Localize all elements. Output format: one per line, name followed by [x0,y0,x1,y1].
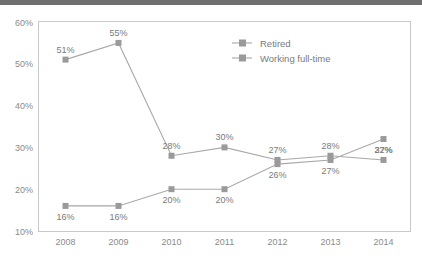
data-point-marker [169,186,175,192]
legend-marker-square [239,55,246,62]
x-axis-tick-label: 2013 [320,237,340,247]
data-point-label: 28% [321,141,339,151]
data-point-label: 30% [215,132,233,142]
data-point-label: 51% [56,45,74,55]
data-point-marker [63,203,69,209]
line-chart: 10%20%30%40%50%60% 200820092010201120122… [0,0,422,258]
chart-legend: RetiredWorking full-time [232,38,331,64]
x-axis-tick-label: 2014 [373,237,393,247]
x-axis-tick-label: 2009 [108,237,128,247]
data-point-marker [222,186,228,192]
series-layer [63,40,387,209]
x-axis-tick-label: 2008 [55,237,75,247]
x-axis-tick-label: 2011 [215,237,234,247]
data-point-label: 16% [109,212,127,222]
y-axis: 10%20%30%40%50%60% [15,18,33,237]
data-point-marker [116,40,122,46]
data-labels-layer: 51%55%28%30%27%28%27%16%16%20%20%26%27%3… [56,28,392,222]
y-axis-tick-label: 40% [15,101,33,111]
data-point-label: 16% [56,212,74,222]
data-point-marker [381,157,387,163]
data-point-marker [275,161,281,167]
y-axis-tick-label: 30% [15,143,33,153]
data-point-marker [63,57,69,63]
data-point-label: 26% [268,170,286,180]
legend-marker-square [239,40,246,47]
data-point-label: 27% [321,166,339,176]
data-point-marker [381,136,387,142]
data-point-label: 20% [162,195,180,205]
data-point-marker [222,144,228,150]
data-point-label: 27% [268,145,286,155]
data-point-label: 55% [109,28,127,38]
y-axis-tick-label: 60% [15,18,33,28]
x-axis-tick-label: 2010 [161,237,181,247]
y-axis-tick-label: 50% [15,59,33,69]
data-point-marker [328,157,334,163]
legend-item-label: Retired [260,38,291,49]
y-axis-tick-label: 20% [15,185,33,195]
data-point-label: 28% [162,141,180,151]
data-point-label: 32% [374,145,392,155]
y-axis-tick-label: 10% [15,227,33,237]
data-point-marker [116,203,122,209]
x-axis: 2008200920102011201220132014 [55,237,393,247]
x-axis-tick-label: 2012 [267,237,287,247]
data-point-marker [169,153,175,159]
legend-item-label: Working full-time [260,53,331,64]
data-point-label: 20% [215,195,233,205]
